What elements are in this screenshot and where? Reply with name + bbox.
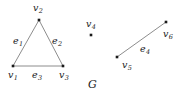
vertex-label-v5: v5 (122, 60, 132, 70)
graph-vertex-v2 (38, 19, 41, 22)
edge-label-subscript: 1 (19, 40, 23, 48)
vertex-label-letter: v (122, 59, 127, 70)
vertex-label-letter: v (59, 69, 64, 80)
graph-vertex-v4 (90, 34, 93, 37)
vertex-label-letter: v (163, 28, 168, 39)
vertex-label-subscript: 4 (92, 23, 96, 31)
edge-label-letter: e (140, 43, 146, 54)
vertex-label-subscript: 6 (169, 33, 173, 41)
graph-vertex-v5 (116, 56, 119, 59)
vertex-label-letter: v (33, 2, 38, 13)
vertex-label-v4: v4 (86, 19, 96, 29)
vertex-label-subscript: 5 (128, 64, 132, 72)
edge-label-subscript: 3 (38, 74, 42, 82)
graph-caption-G: G (88, 79, 97, 90)
edge-label-e1: e1 (13, 36, 23, 46)
vertex-label-v1: v1 (8, 70, 18, 80)
edge-label-letter: e (13, 35, 19, 46)
graph-figure: v1v2v3v4v5v6e1e2e3e4 G (0, 0, 182, 97)
vertex-label-subscript: 3 (65, 74, 69, 82)
edge-label-e2: e2 (52, 36, 62, 46)
vertex-label-v6: v6 (163, 29, 173, 39)
vertex-label-letter: v (8, 69, 13, 80)
edge-label-subscript: 2 (58, 40, 62, 48)
edge-label-letter: e (32, 69, 38, 80)
graph-vertex-v1 (12, 65, 15, 68)
vertex-label-v2: v2 (33, 3, 43, 13)
graph-vertex-v6 (165, 21, 168, 24)
vertex-label-v3: v3 (59, 70, 69, 80)
edge-label-e3: e3 (32, 70, 42, 80)
edge-label-subscript: 4 (146, 48, 150, 56)
edge-label-e4: e4 (140, 44, 150, 54)
edge-label-letter: e (52, 35, 58, 46)
vertex-label-subscript: 1 (14, 74, 18, 82)
vertex-label-subscript: 2 (39, 7, 43, 15)
graph-vertex-v3 (62, 65, 65, 68)
vertex-label-letter: v (86, 18, 91, 29)
